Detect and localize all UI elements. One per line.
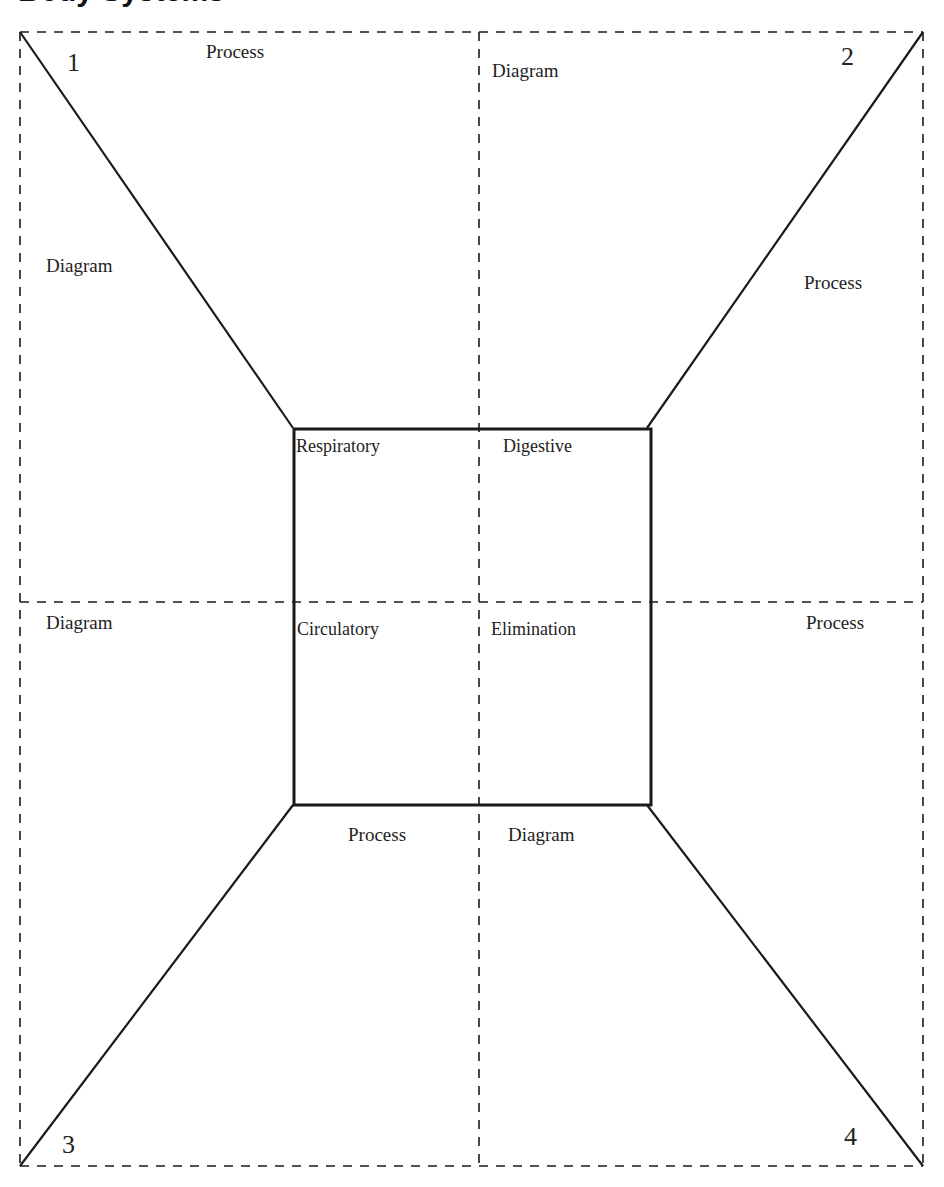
- label-top-right-diagram: Diagram: [492, 61, 558, 80]
- label-left-lower-diagram: Diagram: [46, 613, 112, 632]
- label-respiratory: Respiratory: [296, 437, 380, 455]
- corner-number-1: 1: [67, 50, 80, 76]
- corner-number-4: 4: [844, 1124, 857, 1150]
- label-bottom-right-diagram: Diagram: [508, 825, 574, 844]
- label-bottom-left-process: Process: [348, 825, 406, 844]
- foldable-diagram: [0, 0, 944, 1187]
- corner-number-3: 3: [62, 1132, 75, 1158]
- label-digestive: Digestive: [503, 437, 572, 455]
- diagonal-lines: [20, 32, 923, 1166]
- label-right-upper-process: Process: [804, 273, 862, 292]
- corner-number-2: 2: [841, 44, 854, 70]
- inner-box: [294, 429, 651, 805]
- label-right-lower-process: Process: [806, 613, 864, 632]
- label-left-upper-diagram: Diagram: [46, 256, 112, 275]
- label-elimination: Elimination: [491, 620, 576, 638]
- outer-dashed-border: [20, 32, 923, 1166]
- label-top-left-process: Process: [206, 42, 264, 61]
- label-circulatory: Circulatory: [297, 620, 379, 638]
- fold-lines: [20, 32, 923, 1166]
